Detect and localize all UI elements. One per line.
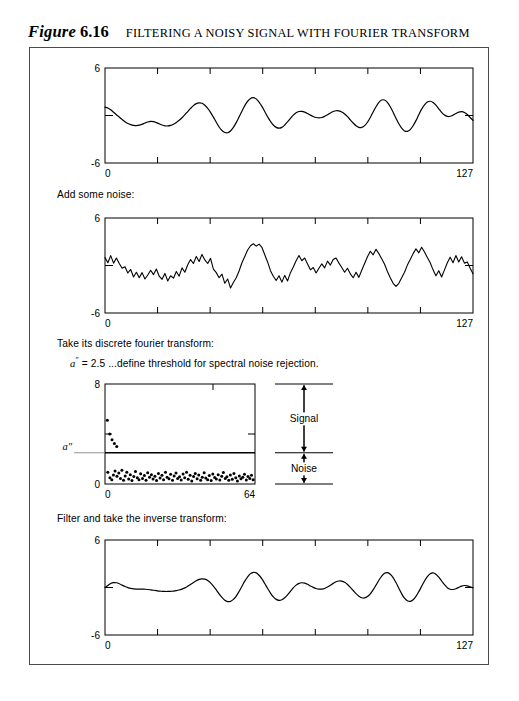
step-label-inverse: Filter and take the inverse transform:	[57, 513, 227, 524]
spectrum-point	[122, 479, 125, 482]
y-axis-max-label: 6	[94, 63, 100, 74]
spectrum-point	[114, 469, 117, 472]
spectrum-point	[187, 478, 190, 481]
filtered-signal-trace	[105, 572, 473, 601]
spectrum-point	[222, 471, 225, 474]
spectrum-point	[152, 478, 155, 481]
y-axis-max-label: 8	[94, 379, 100, 390]
spectrum-point	[117, 472, 120, 475]
spectrum-point	[115, 445, 118, 448]
spectrum-point	[130, 479, 133, 482]
spectrum-point	[127, 478, 130, 481]
figure-root: Figure 6.16 FILTERING A NOISY SIGNAL WIT…	[0, 0, 519, 701]
spectrum-point	[211, 473, 214, 476]
spectrum-point	[153, 475, 156, 478]
spectrum-point	[183, 476, 186, 479]
noisy-signal-trace	[105, 244, 473, 288]
spectrum-point	[112, 474, 115, 477]
step-label-dft: Take its discrete fourier transform:	[57, 338, 214, 349]
spectrum-point	[229, 474, 232, 477]
clean-signal-trace	[105, 98, 473, 133]
spectrum-point	[148, 476, 151, 479]
step-label-add-noise: Add some noise:	[57, 189, 134, 200]
spectrum-point	[217, 473, 220, 476]
spectrum-point	[139, 472, 142, 475]
y-axis-max-label: 6	[94, 213, 100, 224]
panel-clean-signal: 6-60127	[60, 58, 480, 183]
y-axis-max-label: 6	[94, 535, 100, 546]
spectrum-point	[132, 475, 135, 478]
spectrum-point	[171, 479, 174, 482]
spectrum-point	[180, 479, 183, 482]
spectrum-point	[236, 479, 239, 482]
spectrum-point	[206, 478, 209, 481]
spectrum-point	[164, 471, 167, 474]
x-axis-max-label: 127	[456, 318, 473, 329]
spectrum-point	[119, 477, 122, 480]
step-label-threshold: a″ = 2.5 ...define threshold for spectra…	[70, 356, 319, 369]
figure-caption-label: Figure	[28, 22, 76, 42]
panel-filtered-signal: 6-60127	[60, 530, 480, 655]
spectrum-point	[155, 479, 158, 482]
spectrum-point	[143, 474, 146, 477]
spectrum-point	[134, 470, 137, 473]
spectrum-point	[175, 472, 178, 475]
spectrum-point	[225, 475, 228, 478]
spectrum-point	[218, 479, 221, 482]
spectrum-point	[245, 479, 248, 482]
spectrum-point	[111, 438, 114, 441]
plot-box	[105, 540, 473, 635]
spectrum-point	[178, 475, 181, 478]
figure-caption: Figure 6.16 FILTERING A NOISY SIGNAL WIT…	[28, 22, 498, 44]
spectrum-point	[210, 479, 213, 482]
y-axis-min-label: -6	[91, 158, 100, 169]
spectrum-point	[150, 473, 153, 476]
spectrum-point	[141, 477, 144, 480]
spectrum-point	[220, 475, 223, 478]
plot-box	[105, 218, 473, 313]
spectrum-point	[189, 474, 192, 477]
signal-arrow-down-head	[301, 447, 307, 452]
spectrum-point	[196, 477, 199, 480]
threshold-axis-label: a″	[62, 441, 72, 452]
figure-caption-number: 6.16	[80, 22, 109, 42]
spectrum-point	[124, 474, 127, 477]
spectrum-point	[192, 475, 195, 478]
spectrum-point	[108, 433, 111, 436]
spectrum-point	[159, 477, 162, 480]
spectrum-point	[157, 472, 160, 475]
spectrum-point	[115, 475, 118, 478]
spectrum-point	[146, 471, 149, 474]
x-axis-max-label: 127	[456, 640, 473, 651]
clean-signal-chart: 6-60127	[60, 58, 480, 183]
spectrum-point	[113, 442, 116, 445]
spectrum-point	[231, 478, 234, 481]
y-axis-min-label: 0	[94, 479, 100, 490]
spectrum-point	[169, 473, 172, 476]
panel-fourier-spectrum: a″80064SignalNoise	[60, 376, 350, 494]
spectrum-point	[106, 419, 109, 422]
spectrum-point	[243, 473, 246, 476]
spectrum-point	[173, 474, 176, 477]
spectrum-point	[194, 472, 197, 475]
spectrum-point	[250, 474, 253, 477]
spectrum-point	[208, 474, 211, 477]
spectrum-point	[137, 478, 140, 481]
spectrum-point	[129, 473, 132, 476]
spectrum-point	[162, 478, 165, 481]
spectrum-point	[120, 469, 123, 472]
x-axis-min-label: 0	[105, 489, 111, 500]
spectrum-point	[215, 478, 218, 481]
noise-arrow-down-head	[301, 478, 307, 483]
spectrum-point	[110, 478, 113, 481]
noisy-signal-chart: 6-60127	[60, 208, 480, 333]
signal-bracket-label: Signal	[290, 413, 318, 424]
spectrum-point	[203, 471, 206, 474]
spectrum-point	[234, 476, 237, 479]
y-axis-min-label: -6	[91, 308, 100, 319]
spectrum-point	[227, 479, 230, 482]
noise-bracket-label: Noise	[291, 463, 317, 474]
x-axis-min-label: 0	[105, 168, 111, 179]
spectrum-point	[125, 471, 128, 474]
spectrum-point	[185, 471, 188, 474]
